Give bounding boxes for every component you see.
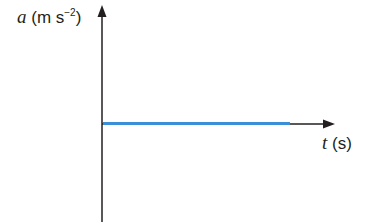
y-axis-arrow-icon: [98, 5, 107, 17]
x-axis-arrow-icon: [323, 120, 335, 129]
y-axis-label: a (m s−2): [17, 6, 81, 28]
x-axis-label: t (s): [322, 132, 352, 154]
chart-canvas: [0, 0, 370, 222]
